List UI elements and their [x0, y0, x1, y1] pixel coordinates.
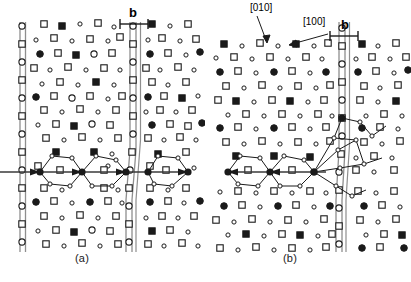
panel-a: [0, 0, 205, 282]
burgers-arrow-b: [224, 168, 326, 175]
burgers-vector-label-b: b: [341, 17, 349, 32]
burgers-vector-bar-b: [330, 31, 358, 41]
panel-caption-a: (a): [75, 252, 89, 264]
circuit-vertex-atoms-a: [48, 154, 180, 188]
burgers-vector-label-a: b: [129, 5, 137, 20]
panel-caption-b: (b): [283, 252, 297, 264]
atom-lattice-b: [213, 25, 411, 252]
atom-lattice-a: [19, 20, 205, 248]
direction-label-010: [010]: [250, 2, 272, 13]
figure-root: [010] [100] b b (a) (b): [0, 0, 411, 282]
panel-b-canvas: [206, 0, 411, 282]
panel-b: [206, 0, 411, 282]
direction-label-100: [100]: [303, 16, 325, 27]
panel-a-canvas: [0, 0, 205, 282]
